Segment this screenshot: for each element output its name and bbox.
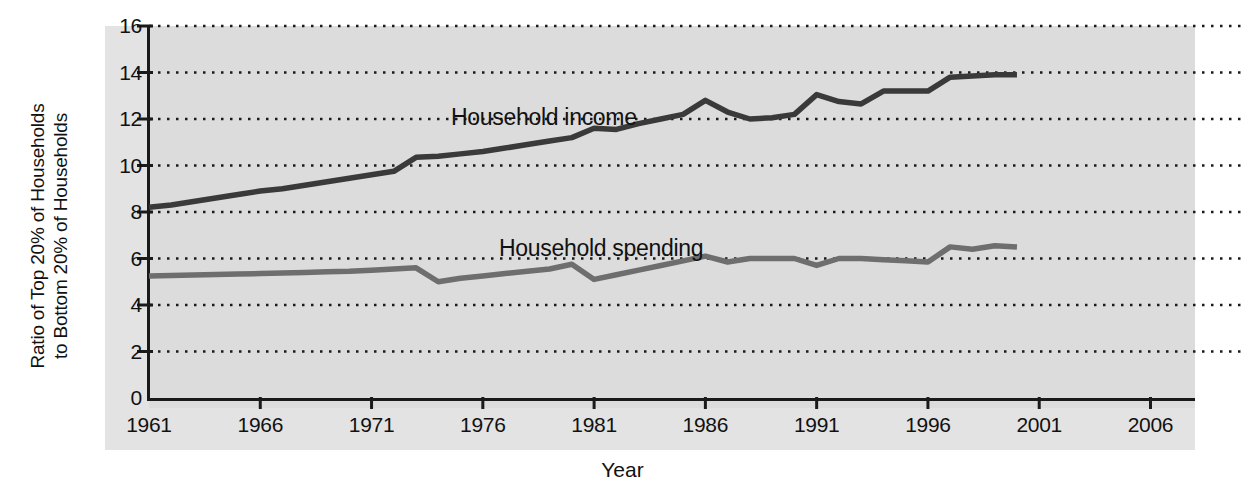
y-axis-title-line2: to Bottom 20% of Households — [49, 36, 72, 436]
y-tick-label-2: 2 — [98, 340, 142, 364]
y-axis-title: Ratio of Top 20% of Households to Bottom… — [26, 36, 72, 436]
y-tick-label-12: 12 — [98, 107, 142, 131]
x-tick-label-1986: 1986 — [683, 413, 729, 437]
x-tick-label-1996: 1996 — [905, 413, 951, 437]
x-tick-label-1976: 1976 — [460, 413, 506, 437]
y-tick-label-0: 0 — [98, 386, 142, 410]
x-axis-title: Year — [0, 458, 1245, 482]
y-tick-label-16: 16 — [98, 14, 142, 38]
x-tick-label-1981: 1981 — [571, 413, 617, 437]
x-tick-label-1961: 1961 — [126, 413, 172, 437]
chart-figure: 1614121086420 19611966197119761981198619… — [0, 0, 1245, 494]
x-tick-label-2001: 2001 — [1016, 413, 1062, 437]
y-tick-label-10: 10 — [98, 154, 142, 178]
series-line-household-income — [149, 75, 1017, 208]
x-tick-label-1966: 1966 — [238, 413, 284, 437]
x-tick-label-2006: 2006 — [1128, 413, 1174, 437]
y-tick-label-4: 4 — [98, 293, 142, 317]
x-tick-marks-group — [260, 397, 1150, 409]
x-tick-label-1991: 1991 — [794, 413, 840, 437]
y-tick-label-8: 8 — [98, 200, 142, 224]
x-tick-label-1971: 1971 — [349, 413, 395, 437]
gridlines-group — [149, 26, 1241, 352]
y-tick-label-14: 14 — [98, 61, 142, 85]
series-label-household-spending: Household spending — [499, 235, 703, 262]
series-label-household-income: Household income — [451, 104, 637, 131]
y-tick-label-6: 6 — [98, 247, 142, 271]
y-axis-title-line1: Ratio of Top 20% of Households — [26, 36, 49, 436]
